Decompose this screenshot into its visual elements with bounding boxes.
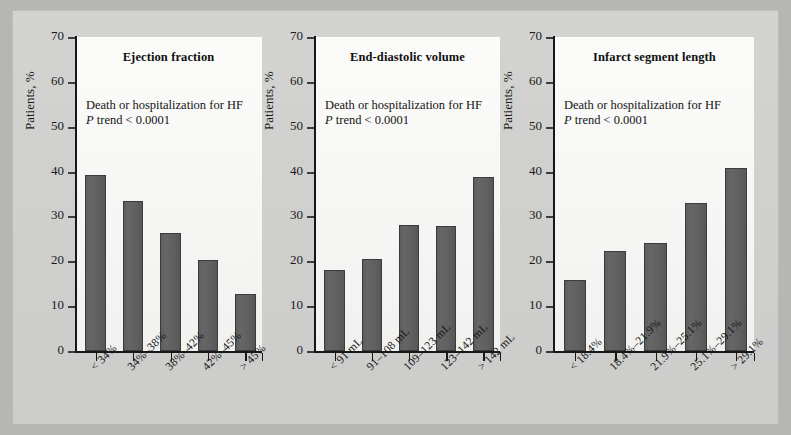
y-tick-20: 20 [546,261,553,262]
y-tick-70: 70 [546,37,553,38]
x-tick [262,353,263,361]
y-tick-label-30: 30 [529,207,542,223]
y-tick-label-20: 20 [51,252,64,268]
y-tick-label-0: 0 [297,342,304,358]
y-tick-label-20: 20 [290,252,303,268]
y-tick-30: 30 [307,216,314,217]
y-tick-10: 10 [68,306,75,307]
x-tick [409,353,410,361]
y-tick-50: 50 [307,127,314,128]
y-tick-label-40: 40 [529,163,542,179]
y-tick-label-70: 70 [51,28,64,44]
y-tick-label-40: 40 [51,163,64,179]
y-tick-40: 40 [307,172,314,173]
x-tick [615,353,616,361]
y-tick-label-10: 10 [290,297,303,313]
y-tick-label-70: 70 [529,28,542,44]
bar-group [77,37,262,351]
bar-group [316,37,500,351]
x-tick [446,353,447,361]
x-tick [483,353,484,361]
y-tick-label-0: 0 [536,342,543,358]
y-tick-70: 70 [307,37,314,38]
x-tick [171,353,172,361]
y-tick-label-60: 60 [290,73,303,89]
chart-panel-ejection-fraction: Patients, % 010203040506070 Ejection fra… [26,10,272,425]
y-tick-label-10: 10 [529,297,542,313]
y-tick-label-70: 70 [290,28,303,44]
y-tick-30: 30 [546,216,553,217]
bar [362,259,382,351]
bar [564,280,586,351]
y-tick-label-0: 0 [58,342,65,358]
y-tick-0: 0 [546,351,553,352]
y-tick-label-10: 10 [51,297,64,313]
bar [123,201,144,351]
bar [324,270,344,351]
y-tick-label-30: 30 [290,207,303,223]
x-tick [208,353,209,361]
y-axis-title: Patients, % [261,72,277,131]
y-axis-title: Patients, % [22,72,38,131]
x-tick [96,353,97,361]
y-tick-60: 60 [546,82,553,83]
x-tick [133,353,134,361]
x-tick [575,353,576,361]
y-tick-30: 30 [68,216,75,217]
x-tick [372,353,373,361]
y-tick-20: 20 [307,261,314,262]
chart-panel-end-diastolic-volume: Patients, % 010203040506070 End-diastoli… [265,10,511,425]
y-tick-10: 10 [546,306,553,307]
chart-panel-infarct-segment-length: Patients, % 010203040506070 Infarct segm… [504,10,766,425]
y-tick-20: 20 [68,261,75,262]
y-tick-40: 40 [68,172,75,173]
x-tick [736,353,737,361]
x-tick [335,353,336,361]
y-tick-label-40: 40 [290,163,303,179]
y-tick-label-50: 50 [51,118,64,134]
y-tick-50: 50 [546,127,553,128]
y-axis-title: Patients, % [500,72,516,131]
bar [604,251,626,351]
bar-group [555,37,754,351]
y-tick-50: 50 [68,127,75,128]
figure-canvas: Patients, % 010203040506070 Ejection fra… [12,10,779,425]
y-tick-0: 0 [68,351,75,352]
y-tick-70: 70 [68,37,75,38]
y-tick-10: 10 [307,306,314,307]
x-tick [754,353,755,361]
y-tick-label-30: 30 [51,207,64,223]
x-tick [696,353,697,361]
x-tick [245,353,246,361]
y-tick-60: 60 [307,82,314,83]
y-tick-label-50: 50 [290,118,303,134]
y-tick-label-20: 20 [529,252,542,268]
y-tick-label-60: 60 [51,73,64,89]
x-tick [500,353,501,361]
y-tick-0: 0 [307,351,314,352]
y-tick-label-60: 60 [529,73,542,89]
y-tick-40: 40 [546,172,553,173]
bar [85,175,106,351]
y-tick-60: 60 [68,82,75,83]
y-tick-label-50: 50 [529,118,542,134]
x-tick [656,353,657,361]
